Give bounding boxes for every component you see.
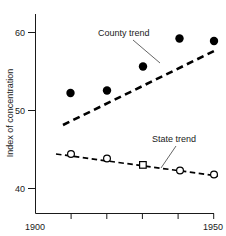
state-point-1940	[177, 167, 184, 174]
y-tick-label-60: 60	[15, 28, 25, 38]
annotation-county-trend-label: County trend	[98, 28, 150, 38]
annotation-state-trend-label: State trend	[152, 134, 196, 144]
county-point-1930	[139, 62, 147, 70]
y-tick-label-50: 50	[15, 106, 25, 116]
x-tick-label-1950: 1950	[203, 222, 223, 232]
county-point-1910	[66, 89, 74, 97]
chart-canvas: 60 50 40 1900 1950 Index of concentratio…	[0, 0, 226, 236]
y-tick-label-40: 40	[15, 184, 25, 194]
state-point-1920	[104, 155, 111, 162]
chart-figure: 60 50 40 1900 1950 Index of concentratio…	[0, 0, 226, 236]
county-point-1940	[175, 34, 183, 42]
state-point-1930	[140, 162, 147, 169]
x-tick-label-1900: 1900	[25, 222, 45, 232]
y-axis-title: Index of concentration	[5, 69, 15, 158]
county-point-1950	[210, 37, 218, 45]
state-point-1910	[68, 151, 75, 158]
state-point-1950	[211, 171, 218, 178]
county-point-1920	[103, 86, 111, 94]
